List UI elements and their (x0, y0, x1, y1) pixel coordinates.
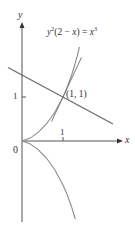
curve-lower-branch (22, 141, 75, 219)
normal-line (8, 68, 113, 125)
y-tick-text: 1 (13, 91, 18, 101)
origin-label: 0 (13, 145, 18, 155)
y-axis-arrow-icon (20, 22, 25, 28)
y-tick-label: 1 (13, 92, 18, 101)
x-axis-label: x (125, 135, 129, 145)
eq-middle: (2 − (54, 27, 72, 37)
eq-rhs-exp: 3 (94, 26, 97, 32)
x-tick-text: 1 (60, 127, 65, 137)
x-tick-label: 1 (60, 128, 65, 137)
point-label: (1, 1) (66, 90, 87, 100)
equation-label: y2(2 − x) = x3 (47, 26, 97, 38)
eq-rest: ) = (76, 27, 89, 37)
x-axis-arrow-icon (117, 139, 123, 144)
y-axis-label: y (18, 10, 22, 20)
